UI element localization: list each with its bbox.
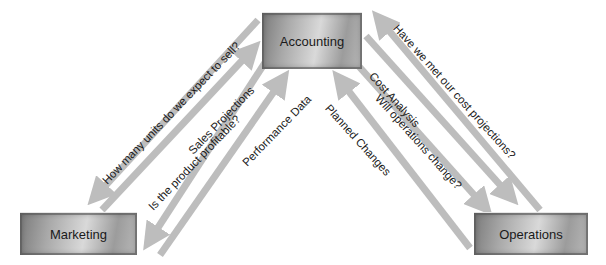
accounting-label: Accounting: [280, 34, 344, 49]
operations-box: Operations: [474, 212, 588, 255]
marketing-label: Marketing: [50, 227, 107, 242]
operations-label: Operations: [499, 227, 563, 242]
accounting-box: Accounting: [262, 12, 362, 69]
marketing-box: Marketing: [20, 212, 137, 255]
